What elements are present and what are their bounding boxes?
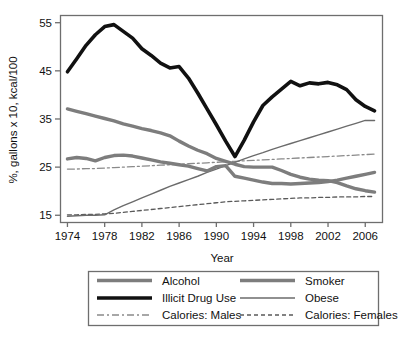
x-tick-label: 2002 xyxy=(315,230,341,242)
y-tick-label: 35 xyxy=(39,113,52,125)
legend-label: Smoker xyxy=(305,275,345,287)
x-tick-label: 1990 xyxy=(204,230,230,242)
x-axis-title: Year xyxy=(210,252,233,264)
x-tick-label: 1978 xyxy=(92,230,118,242)
x-tick-label: 2006 xyxy=(352,230,378,242)
x-tick-label: 1986 xyxy=(166,230,192,242)
legend-label: Alcohol xyxy=(162,275,200,287)
y-axis-title: %, gallons x 10, kcal/100 xyxy=(7,56,19,183)
legend-label: Obese xyxy=(305,292,339,304)
y-tick-label: 15 xyxy=(39,209,52,221)
chart-figure: 1525354555 19741978198219861990199419982… xyxy=(0,0,420,338)
x-tick-label: 1994 xyxy=(241,230,267,242)
x-tick-label: 1982 xyxy=(129,230,155,242)
x-tick-label: 1974 xyxy=(55,230,81,242)
y-tick-label: 25 xyxy=(39,161,52,173)
x-tick-label: 1998 xyxy=(278,230,304,242)
legend-label: Illicit Drug Use xyxy=(162,292,236,304)
line-chart: 1525354555 19741978198219861990199419982… xyxy=(0,0,420,338)
chart-legend: AlcoholSmokerIllicit Drug UseObeseCalori… xyxy=(89,272,398,326)
legend-label: Calories: Males xyxy=(162,309,241,321)
legend-label: Calories: Females xyxy=(305,309,398,321)
y-tick-label: 55 xyxy=(39,17,52,29)
y-tick-label: 45 xyxy=(39,65,52,77)
